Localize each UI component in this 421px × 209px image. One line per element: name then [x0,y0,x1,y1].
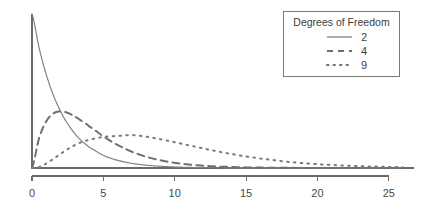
x-axis-tick-label: 20 [311,187,323,199]
x-axis-tick-label: 25 [383,187,395,199]
x-axis-tick-label: 10 [169,187,181,199]
legend-label-4: 4 [361,45,367,57]
x-axis-tick-label: 0 [29,187,35,199]
legend-label-2: 2 [361,31,367,43]
plot-area: 0510152025 Degrees of Freedom 2 4 9 [0,0,421,209]
x-axis-tick-label: 5 [100,187,106,199]
x-axis-ticks [32,176,389,181]
chi-square-chart: 0510152025 Degrees of Freedom 2 4 9 [0,0,421,209]
curve-df-9 [32,135,403,168]
legend: Degrees of Freedom 2 4 9 [284,12,400,77]
legend-title: Degrees of Freedom [293,16,390,28]
x-axis-tick-labels: 0510152025 [29,187,395,199]
legend-label-9: 9 [361,59,367,71]
x-axis-tick-label: 15 [240,187,252,199]
